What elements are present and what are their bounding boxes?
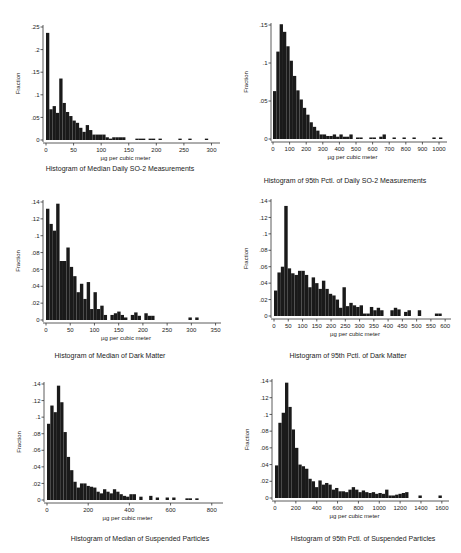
histogram-bar <box>56 113 59 140</box>
x-tick-label: 250 <box>179 147 190 153</box>
histogram-bar <box>77 292 80 320</box>
histogram-bar <box>319 289 322 316</box>
y-tick-label: .04 <box>260 462 269 468</box>
chart-title: Histogram of Median Daily SO-2 Measureme… <box>46 165 195 172</box>
histogram-bar <box>388 495 391 498</box>
histogram-bar <box>332 490 335 498</box>
histogram-bar <box>109 139 112 140</box>
histogram-chart-3: 0.02.04.06.08.1.12.140501001502002503003… <box>15 199 221 341</box>
x-tick-label: 1400 <box>414 505 428 511</box>
histogram-bar <box>49 109 52 140</box>
histogram-bar <box>380 310 383 316</box>
histogram-bar <box>281 267 284 316</box>
histogram-bar <box>106 492 109 500</box>
histogram-bar <box>96 492 99 500</box>
y-tick-label: .02 <box>31 300 40 306</box>
histogram-bar <box>92 135 95 140</box>
histogram-bar <box>185 498 188 500</box>
x-tick-label: 800 <box>207 507 218 513</box>
x-tick-label: 1600 <box>435 505 449 511</box>
x-tick-label: 400 <box>383 323 394 329</box>
histogram-bar <box>377 308 380 316</box>
histogram-bar <box>303 108 306 139</box>
histogram-bar <box>305 469 308 498</box>
histogram-bar <box>96 135 99 140</box>
y-tick-label: .06 <box>260 445 269 451</box>
x-tick-label: 600 <box>166 507 177 513</box>
x-tick-label: 200 <box>301 146 312 152</box>
histogram-bar <box>393 137 396 139</box>
histogram-bar <box>60 402 63 500</box>
histogram-chart-6: 0.02.04.06.08.1.12.140200400600800100012… <box>244 378 449 519</box>
histogram-bar <box>49 224 52 320</box>
y-tick-label: .14 <box>259 198 268 204</box>
y-tick-label: .04 <box>31 283 40 289</box>
histogram-bar <box>349 303 352 316</box>
histogram-bar <box>172 498 175 500</box>
histogram-bar <box>301 271 304 316</box>
histogram-bar <box>365 492 368 498</box>
y-tick-label: .04 <box>32 464 41 470</box>
x-tick-label: 900 <box>417 146 428 152</box>
y-tick-label: .05 <box>259 98 268 104</box>
histogram-bar <box>438 314 441 316</box>
histogram-bar <box>66 248 69 320</box>
histogram-bar <box>355 490 358 498</box>
histogram-bars <box>275 383 442 498</box>
y-tick-label: .1 <box>262 231 268 237</box>
histogram-bar <box>345 492 348 498</box>
y-tick-label: .15 <box>31 69 40 75</box>
histogram-bar <box>188 317 191 320</box>
histogram-bar <box>418 495 421 498</box>
histogram-bar <box>349 134 352 139</box>
histogram-bar <box>305 275 308 316</box>
y-tick-label: .08 <box>260 428 269 434</box>
histogram-bar <box>352 487 355 498</box>
histogram-bar <box>110 315 113 320</box>
histogram-bar <box>295 448 298 498</box>
histogram-bar <box>102 135 105 140</box>
histogram-bar <box>290 61 293 139</box>
histogram-bar <box>329 136 332 139</box>
histogram-bar <box>149 139 152 140</box>
histogram-bar <box>90 487 93 500</box>
histogram-bar <box>82 132 85 140</box>
histogram-bar <box>205 139 208 140</box>
histogram-bar <box>348 490 351 498</box>
histogram-bar <box>116 137 119 140</box>
chart-title: Histogram of Median of Dark Matter <box>55 352 166 359</box>
histogram-bar <box>56 204 59 320</box>
histogram-bar <box>333 134 336 139</box>
histogram-bar <box>47 424 50 500</box>
y-tick-label: .12 <box>32 398 41 404</box>
histogram-bar <box>54 412 57 500</box>
histogram-bar <box>402 493 405 498</box>
x-tick-label: 250 <box>340 323 351 329</box>
histogram-bar <box>77 488 80 500</box>
histogram-bar <box>339 308 342 316</box>
chart-title: Histogram of 95th Pctl. of Daily SO-2 Me… <box>264 177 427 184</box>
histogram-bar <box>356 307 359 316</box>
y-tick-label: .14 <box>260 378 269 384</box>
histogram-bar <box>366 314 369 316</box>
histogram-bar <box>332 295 335 316</box>
histogram-bar <box>110 493 113 500</box>
histogram-bar <box>313 127 316 139</box>
histogram-bar <box>280 24 283 139</box>
chart-title: Histogram of 95th Pctl. of Suspended Par… <box>291 535 436 542</box>
histogram-bar <box>195 317 198 320</box>
x-tick-label: 0 <box>44 147 48 153</box>
histogram-chart-1: 0.05.1.15.2.25050100150200250300µg per c… <box>15 24 220 161</box>
x-tick-label: 1000 <box>373 505 387 511</box>
histogram-bar <box>323 134 326 139</box>
y-tick-label: 0 <box>37 497 41 503</box>
histogram-bar <box>322 485 325 498</box>
x-tick-label: 100 <box>298 323 309 329</box>
histogram-bar <box>53 231 56 320</box>
x-tick-label: 200 <box>83 507 94 513</box>
x-tick-label: 400 <box>312 505 323 511</box>
histogram-bar <box>276 52 279 139</box>
x-tick-label: 450 <box>397 323 408 329</box>
y-tick-label: .14 <box>31 199 40 205</box>
y-tick-label: .15 <box>259 22 268 28</box>
